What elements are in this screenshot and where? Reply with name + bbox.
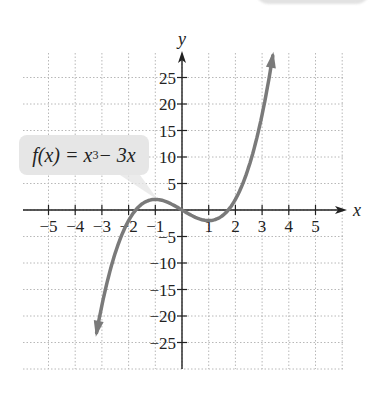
y-tick-label: 5 — [168, 175, 177, 194]
chart-canvas: xy−5−4−3−2−112345252015105−5−10−15−20−25 — [0, 0, 378, 394]
function-curve — [97, 56, 273, 333]
x-tick-label: 5 — [311, 217, 320, 236]
y-tick-label: −25 — [149, 334, 176, 353]
x-tick-label: −3 — [93, 217, 111, 236]
x-axis-label: x — [352, 200, 361, 220]
y-tick-label: 20 — [159, 95, 176, 114]
y-tick-label: −5 — [158, 228, 176, 247]
function-label-suffix: − 3x — [98, 144, 135, 167]
y-tick-label: −20 — [149, 307, 176, 326]
x-tick-label: 3 — [258, 217, 267, 236]
x-tick-label: 2 — [231, 217, 240, 236]
y-tick-label: 10 — [159, 148, 176, 167]
y-axis-label: y — [176, 29, 186, 49]
callout-pointer — [120, 175, 158, 200]
curve-arrow-up-icon — [266, 52, 276, 69]
function-label-callout: f(x) = x3 − 3x — [19, 135, 149, 175]
x-tick-label: −5 — [39, 217, 57, 236]
x-tick-label: −4 — [66, 217, 85, 236]
function-label-prefix: f(x) = x — [32, 144, 92, 167]
y-tick-label: −15 — [149, 281, 176, 300]
x-tick-label: 4 — [285, 217, 294, 236]
y-tick-label: −10 — [149, 254, 176, 273]
y-tick-label: 15 — [159, 122, 176, 141]
y-tick-label: 25 — [159, 69, 176, 88]
